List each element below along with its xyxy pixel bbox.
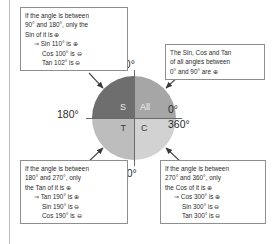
callout-first-quadrant: The Sin, Cos and Tan of all angles betwe… bbox=[165, 44, 265, 80]
callout-third-quadrant: If the angle is between 180° and 270°, o… bbox=[20, 160, 128, 224]
callout-line: The Sin, Cos and Tan bbox=[170, 48, 260, 57]
callout-example: ⇒ Sin 110° is ⊕ bbox=[25, 39, 123, 48]
page-margin-rule bbox=[9, 0, 10, 244]
quadrant-tan-label: T bbox=[121, 123, 127, 133]
callout-example: Sin 300° is ⊖ bbox=[165, 202, 261, 211]
callout-example: ⇒ Cos 300° is ⊕ bbox=[165, 192, 261, 201]
angle-label-0: 0° bbox=[168, 103, 178, 115]
angle-label-360: 360° bbox=[168, 118, 190, 130]
callout-example: Tan 300° is ⊖ bbox=[165, 211, 261, 220]
quadrant-tan: T bbox=[92, 118, 134, 160]
callout-line: 180° and 270°, only bbox=[25, 173, 123, 182]
callout-line: of all angles between bbox=[170, 57, 260, 66]
callout-line: the Tan of it is ⊕ bbox=[25, 183, 123, 192]
callout-example: Cos 190° is ⊖ bbox=[25, 211, 123, 220]
callout-example: Cos 100° is ⊖ bbox=[25, 49, 123, 58]
callout-second-quadrant: If the angle is between 90° and 180°, on… bbox=[20, 7, 128, 71]
angle-label-180: 180° bbox=[57, 108, 79, 120]
callout-line: the Cos of it is ⊕ bbox=[165, 183, 261, 192]
callout-line: If the angle is between bbox=[25, 11, 123, 20]
callout-line: 270° and 360°, only bbox=[165, 173, 261, 182]
quadrant-all-label: All bbox=[140, 102, 150, 112]
callout-example: Sin 190° is ⊖ bbox=[25, 202, 123, 211]
callout-example: Tan 102° is ⊖ bbox=[25, 58, 123, 67]
callout-line: If the angle is between bbox=[165, 164, 261, 173]
quadrant-sin: S bbox=[92, 76, 134, 118]
callout-line: 90° and 180°, only the bbox=[25, 20, 123, 29]
callout-line: 0° and 90° are ⊕ bbox=[170, 67, 260, 76]
callout-example: ⇒ Tan 190° is ⊕ bbox=[25, 192, 123, 201]
figure-canvas: S All T C 90° 180° 0° 360° 270° bbox=[0, 0, 275, 244]
quadrant-cos-label: C bbox=[141, 123, 148, 133]
callout-line: If the angle is between bbox=[25, 164, 123, 173]
callout-line: Sin of it is ⊕ bbox=[25, 30, 123, 39]
quadrant-sin-label: S bbox=[120, 102, 126, 112]
callout-fourth-quadrant: If the angle is between 270° and 360°, o… bbox=[160, 160, 266, 224]
